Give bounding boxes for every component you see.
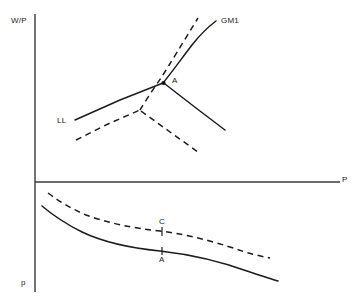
- upper-panel-curves: [75, 18, 225, 152]
- curve-ll-solid: [75, 83, 163, 120]
- curve-label-gm1: GM1: [221, 17, 239, 25]
- curve-label-ll: LL: [57, 117, 66, 125]
- diagram-svg: [0, 0, 363, 302]
- point-label-a-lower: A: [159, 256, 165, 264]
- curve-gm1-dashed: [140, 18, 198, 110]
- axis-label-w-over-p: W/P: [11, 17, 27, 25]
- curve-gm1-solid: [163, 21, 216, 83]
- curve-right-branch-dashed: [141, 111, 198, 152]
- point-label-c-lower: C: [159, 218, 165, 226]
- axes-group: [35, 14, 340, 292]
- point-label-a-upper: A: [172, 77, 178, 85]
- diagram-canvas: W/P P p GM1 LL A C A: [0, 0, 363, 302]
- lower-panel-curves: [42, 193, 278, 281]
- axis-label-p-lower: p: [21, 279, 26, 287]
- junction-point-a-marker: [161, 81, 165, 85]
- curve-right-branch-solid: [165, 84, 225, 130]
- axis-label-p-upper: P: [342, 176, 348, 184]
